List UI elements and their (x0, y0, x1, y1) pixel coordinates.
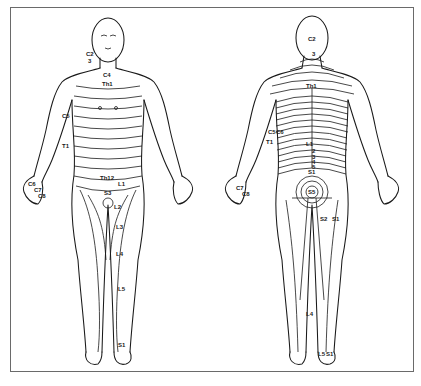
label-s1-back-top: S1 (308, 169, 316, 175)
posterior-left-foot (290, 352, 306, 364)
label-c8-front: C8 (38, 193, 46, 199)
label-l4-back: L4 (306, 311, 314, 317)
label-l1-back: L1 (306, 141, 314, 147)
posterior-figure: C2 3 Th1 L1 2 3 4 5 S1 S5 S2 S1 C5 C6 T1… (225, 16, 398, 364)
anterior-right-arm-inner (144, 100, 174, 182)
label-l3-front: L3 (116, 224, 124, 230)
label-t1-back: T1 (266, 139, 274, 145)
label-c8-back: C8 (242, 191, 250, 197)
anterior-right-hand (173, 176, 192, 204)
label-c6-back: C6 (276, 129, 284, 135)
label-s1-back: S1 (332, 216, 340, 222)
label-c2: C2 (86, 51, 94, 57)
posterior-right-hand (378, 176, 399, 204)
label-s1-back-foot: S1 (326, 351, 334, 357)
label-s2-back: S2 (320, 216, 328, 222)
anterior-neck (100, 58, 116, 68)
anterior-left-foot (86, 352, 102, 364)
anterior-right-foot (114, 352, 131, 364)
label-l2-front: L2 (114, 204, 122, 210)
label-l4-front: L4 (116, 251, 124, 257)
label-c2-back: C2 (308, 36, 316, 42)
label-c5-front: C5 (62, 113, 70, 119)
label-l5-back-foot: L5 (318, 351, 326, 357)
label-th1-front: Th1 (102, 81, 113, 87)
anterior-figure: C2 3 C4 Th1 C5 T1 C6 C7 C8 Th12 L1 S3 L2… (23, 18, 192, 364)
anterior-head (92, 18, 124, 62)
label-th1-back: Th1 (306, 83, 317, 89)
dermatome-diagram: C2 3 C4 Th1 C5 T1 C6 C7 C8 Th12 L1 S3 L2… (0, 0, 421, 386)
label-c3: 3 (88, 58, 92, 64)
posterior-right-arm-inner (348, 100, 378, 182)
label-l5-front: L5 (118, 286, 126, 292)
label-s3-front: S3 (104, 190, 112, 196)
label-c4: C4 (103, 72, 111, 78)
anterior-face (101, 35, 116, 49)
label-l1-front: L1 (118, 181, 126, 187)
label-c3-back: 3 (312, 51, 316, 57)
label-s1-front: S1 (118, 342, 126, 348)
label-th12: Th12 (100, 175, 115, 181)
label-s5-back: S5 (308, 189, 316, 195)
label-t1-front: T1 (62, 143, 70, 149)
posterior-leg-bands (286, 200, 338, 352)
anterior-body-outline (34, 68, 182, 352)
